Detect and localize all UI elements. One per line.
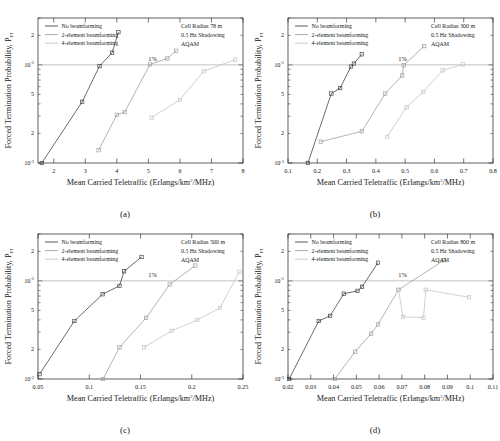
- x-tick-label: 7: [210, 167, 213, 174]
- subplot-b-canvas: 10-310-22250.10.20.30.40.50.60.70.81%For…: [250, 0, 500, 220]
- x-tick-label: 5: [147, 167, 150, 174]
- reference-line-label: 1%: [398, 271, 407, 278]
- y-tick-label: 10-2: [24, 276, 34, 284]
- x-tick-label: 0.7: [460, 167, 468, 174]
- x-tick-label: 0.1: [284, 167, 292, 174]
- annotation-line: AQAM: [431, 41, 450, 47]
- subplot-c-canvas: 10-310-22250.050.10.150.20.251%Forced Te…: [0, 216, 250, 441]
- y-minor-tick-label: 5: [31, 306, 34, 313]
- x-tick-label: 0.09: [442, 383, 453, 390]
- y-minor-tick-label: 2: [31, 345, 34, 352]
- x-axis-title: Mean Carried Teletraffic (Erlangs/km2/MH…: [67, 178, 215, 187]
- data-point-marker: [150, 116, 153, 119]
- series-line: [321, 46, 424, 141]
- x-tick-label: 0.11: [488, 383, 499, 390]
- y-minor-tick-label: 5: [281, 306, 284, 313]
- annotation-line: Cell Radius 78 m: [181, 23, 222, 29]
- annotation-line: Cell Radius 300 m: [431, 23, 475, 29]
- annotation-line: 0.5 Hz Shadowing: [181, 248, 225, 254]
- legend-label: 4-element beamforming: [312, 40, 369, 46]
- x-tick-label: 4: [115, 167, 118, 174]
- y-minor-tick-label: 2: [31, 247, 34, 254]
- legend-label: 4-element beamforming: [62, 256, 119, 262]
- y-tick-label: 10-2: [274, 276, 284, 284]
- y-axis-title: Forced Termination Probability, PFT: [4, 32, 14, 149]
- series-line: [42, 32, 119, 163]
- x-tick-label: 0.06: [374, 383, 385, 390]
- series-line: [103, 266, 195, 379]
- x-tick-label: 0.15: [135, 383, 146, 390]
- annotation-line: 0.5 Hz Shadowing: [431, 32, 475, 38]
- x-tick-label: 0.1: [85, 383, 93, 390]
- y-tick-label: 10-3: [24, 375, 35, 383]
- legend-label: 2-element beamforming: [312, 248, 369, 254]
- subplot-d-caption: (d): [250, 425, 500, 435]
- reference-line-label: 1%: [148, 55, 157, 62]
- series-line: [99, 51, 177, 150]
- y-minor-tick-label: 2: [31, 31, 34, 38]
- series-line: [152, 60, 236, 118]
- x-axis-title: Mean Carried Teletraffic (Erlangs/km2/MH…: [67, 394, 215, 403]
- x-tick-label: 0.1: [466, 383, 474, 390]
- y-axis-title: Forced Termination Probability, PFT: [4, 248, 14, 365]
- x-axis-title: Mean Carried Teletraffic (Erlangs/km2/MH…: [317, 178, 465, 187]
- series-line: [335, 260, 444, 379]
- subplot-a: 10-310-222523456781%Forced Termination P…: [0, 0, 250, 220]
- x-tick-label: 0.2: [188, 383, 196, 390]
- y-tick-label: 10-2: [274, 60, 284, 68]
- legend-label: 2-element beamforming: [62, 32, 119, 38]
- series-line: [289, 263, 378, 379]
- y-minor-tick-label: 5: [281, 90, 284, 97]
- annotation-line: AQAM: [431, 257, 450, 263]
- x-tick-label: 0.04: [328, 383, 339, 390]
- legend-label: No beamforming: [62, 23, 102, 29]
- annotation-line: Cell Radius 800 m: [431, 239, 475, 245]
- y-minor-tick-label: 5: [31, 90, 34, 97]
- y-axis-title: Forced Termination Probability, PFT: [254, 248, 264, 365]
- x-tick-label: 0.25: [238, 383, 249, 390]
- subplot-c-caption: (c): [0, 425, 250, 435]
- y-minor-tick-label: 2: [281, 247, 284, 254]
- x-tick-label: 0.05: [351, 383, 362, 390]
- annotation-line: Cell Radius 500 m: [181, 239, 225, 245]
- x-tick-label: 0.08: [419, 383, 430, 390]
- legend-label: 4-element beamforming: [62, 40, 119, 46]
- y-minor-tick-label: 2: [281, 129, 284, 136]
- annotation-line: AQAM: [181, 41, 200, 47]
- legend-label: No beamforming: [312, 239, 352, 245]
- subplot-c: 10-310-22250.050.10.150.20.251%Forced Te…: [0, 216, 250, 436]
- y-axis-title: Forced Termination Probability, PFT: [254, 32, 264, 149]
- series-line: [144, 272, 239, 348]
- x-tick-label: 0.5: [401, 167, 409, 174]
- y-tick-label: 10-3: [24, 159, 35, 167]
- x-tick-label: 8: [241, 167, 244, 174]
- y-minor-tick-label: 2: [281, 345, 284, 352]
- series-line: [308, 54, 362, 163]
- legend-label: 2-element beamforming: [312, 32, 369, 38]
- x-tick-label: 0.07: [396, 383, 407, 390]
- legend-label: No beamforming: [62, 239, 102, 245]
- x-tick-label: 2: [52, 167, 55, 174]
- x-tick-label: 0.02: [283, 383, 294, 390]
- x-tick-label: 0.6: [431, 167, 439, 174]
- reference-line-label: 1%: [398, 55, 407, 62]
- y-tick-label: 10-3: [274, 375, 285, 383]
- subplot-a-canvas: 10-310-222523456781%Forced Termination P…: [0, 0, 250, 220]
- annotation-line: AQAM: [181, 257, 200, 263]
- x-tick-label: 0.8: [489, 167, 497, 174]
- x-tick-label: 0.4: [372, 167, 380, 174]
- x-tick-label: 6: [178, 167, 181, 174]
- series-line: [398, 290, 469, 318]
- y-minor-tick-label: 2: [281, 31, 284, 38]
- x-tick-label: 3: [84, 167, 87, 174]
- subplot-b: 10-310-22250.10.20.30.40.50.60.70.81%For…: [250, 0, 500, 220]
- legend-label: 2-element beamforming: [62, 248, 119, 254]
- figure-panel-grid: 10-310-222523456781%Forced Termination P…: [0, 0, 500, 441]
- x-axis-title: Mean Carried Teletraffic (Erlangs/km2/MH…: [317, 394, 465, 403]
- legend-label: No beamforming: [312, 23, 352, 29]
- x-tick-label: 0.3: [343, 167, 351, 174]
- subplot-d-canvas: 10-310-22250.020.030.040.050.060.070.080…: [250, 216, 500, 441]
- legend-label: 4-element beamforming: [312, 256, 369, 262]
- reference-line-label: 1%: [148, 271, 157, 278]
- x-tick-label: 0.05: [33, 383, 44, 390]
